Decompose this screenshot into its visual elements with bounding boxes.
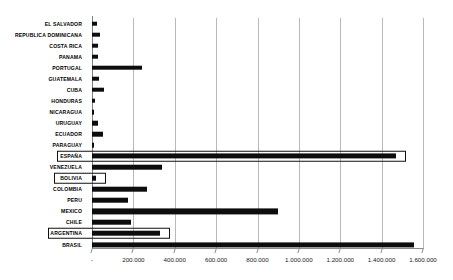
x-tick-label: 200.000 (122, 256, 144, 263)
category-label: COLOMBIA (53, 186, 82, 192)
category-label: REPUBLICA DOMINICANA (15, 32, 82, 38)
bar-row: ECUADOR (0, 129, 453, 140)
category-label: PARAGUAY (52, 142, 82, 148)
category-label: NICARAGUA (50, 109, 82, 115)
bar (92, 121, 98, 126)
x-tick-label: 600.000 (205, 256, 227, 263)
x-tick-label: 1.000.000 (285, 256, 313, 263)
bar-row: CHILE (0, 217, 453, 228)
bar (92, 209, 278, 214)
category-label: ARGENTINA (50, 230, 82, 236)
bar-row: CUBA (0, 84, 453, 95)
bar-row: GUATEMALA (0, 73, 453, 84)
bar-row: PERU (0, 195, 453, 206)
x-tick-label: 1.400.000 (368, 256, 396, 263)
bar-row: VENEZUELA (0, 162, 453, 173)
category-label: GUATEMALA (48, 76, 82, 82)
bar-row: MEXICO (0, 206, 453, 217)
category-label: PORTUGAL (52, 65, 82, 71)
category-label: VENEZUELA (50, 164, 82, 170)
bar (92, 43, 98, 48)
bar-row: PANAMA (0, 51, 453, 62)
bar (92, 143, 94, 148)
bar-row: REPUBLICA DOMINICANA (0, 29, 453, 40)
bar (92, 176, 96, 181)
category-label: URUGUAY (56, 120, 82, 126)
x-tick-label: 1.600.000 (409, 256, 437, 263)
bar (92, 88, 104, 93)
bar-row: HONDURAS (0, 95, 453, 106)
bar-row: ARGENTINA (0, 228, 453, 239)
category-label: PANAMA (59, 54, 82, 60)
category-label: ECUADOR (55, 131, 82, 137)
category-label: HONDURAS (51, 98, 82, 104)
bar-row: BRASIL (0, 239, 453, 250)
bar-row: BOLIVIA (0, 173, 453, 184)
category-label: BRASIL (62, 242, 82, 248)
bar (92, 99, 95, 104)
x-tick-label: 1.200.000 (326, 256, 354, 263)
bar (92, 21, 97, 26)
bar-row: EL SALVADOR (0, 18, 453, 29)
bar-row: ESPAÑA (0, 151, 453, 162)
bar-row: NICARAGUA (0, 106, 453, 117)
category-label: ESPAÑA (60, 153, 82, 159)
category-label: PERU (67, 197, 82, 203)
category-label: COSTA RICA (49, 43, 82, 49)
bar-row: URUGUAY (0, 117, 453, 128)
category-label: EL SALVADOR (45, 21, 82, 27)
bar (92, 187, 147, 192)
bar (92, 231, 160, 236)
category-label: CHILE (66, 219, 82, 225)
bar (92, 220, 131, 225)
bar (92, 242, 414, 247)
x-tick-label: - (91, 256, 93, 263)
bar-row: COSTA RICA (0, 40, 453, 51)
x-tick-label: 400.000 (164, 256, 186, 263)
bar (92, 110, 94, 115)
category-label: CUBA (67, 87, 82, 93)
bar (92, 165, 162, 170)
bar (92, 32, 100, 37)
bar-row: COLOMBIA (0, 184, 453, 195)
category-label: BOLIVIA (60, 175, 82, 181)
bar (92, 132, 103, 137)
bar (92, 76, 99, 81)
bar-row: PARAGUAY (0, 140, 453, 151)
horizontal-bar-chart: -200.000400.000600.000800.0001.000.0001.… (0, 0, 453, 280)
category-label: MEXICO (61, 208, 82, 214)
bar (92, 198, 128, 203)
bar (92, 54, 98, 59)
bar (92, 154, 396, 159)
x-tick-label: 800.000 (246, 256, 268, 263)
bar-row: PORTUGAL (0, 62, 453, 73)
bar (92, 65, 142, 70)
